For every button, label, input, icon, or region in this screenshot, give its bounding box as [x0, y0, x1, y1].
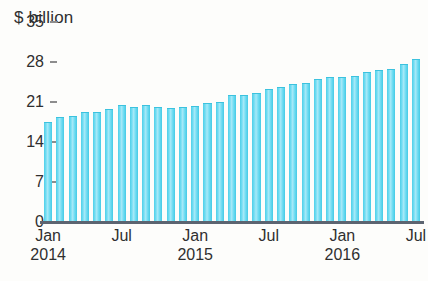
x-axis-line — [40, 221, 424, 224]
bar — [142, 105, 150, 222]
x-axis-month-label: Jul — [259, 226, 279, 245]
x-axis-year-label: 2016 — [325, 245, 361, 264]
x-axis-tick-label: Jul — [259, 226, 279, 245]
bar — [351, 76, 359, 222]
bar — [302, 83, 310, 222]
bar — [216, 102, 224, 222]
x-axis-tick-label: Jan2015 — [177, 226, 213, 264]
bars-layer — [42, 22, 422, 222]
bar — [56, 117, 64, 222]
x-axis-month-label: Jul — [111, 226, 131, 245]
bar — [105, 109, 113, 222]
bar — [338, 77, 346, 222]
bar — [277, 87, 285, 222]
bar-chart: $ billion 0714212835 Jan2014JulJan2015Ju… — [0, 0, 428, 281]
bar — [118, 105, 126, 222]
bar — [387, 69, 395, 222]
bar — [375, 70, 383, 222]
bar — [363, 72, 371, 222]
bar — [412, 59, 420, 222]
x-axis-tick-label: Jan2014 — [30, 226, 66, 264]
bar — [326, 77, 334, 222]
bar — [240, 95, 248, 222]
x-axis-month-label: Jan — [177, 226, 213, 245]
bar — [44, 122, 52, 222]
bar — [130, 107, 138, 222]
bar — [93, 112, 101, 222]
x-axis-tick-label: Jan2016 — [325, 226, 361, 264]
bar — [265, 89, 273, 222]
bar — [400, 64, 408, 222]
bar — [289, 84, 297, 222]
bar — [69, 116, 77, 222]
bar — [154, 107, 162, 222]
bar — [191, 106, 199, 222]
bar — [203, 103, 211, 222]
x-axis-month-label: Jul — [406, 226, 426, 245]
x-axis-year-label: 2014 — [30, 245, 66, 264]
bar — [81, 112, 89, 222]
x-axis-tick-label: Jul — [111, 226, 131, 245]
x-axis: Jan2014JulJan2015JulJan2016Jul — [0, 226, 428, 281]
bar — [179, 107, 187, 222]
x-axis-tick-label: Jul — [406, 226, 426, 245]
bar — [167, 108, 175, 222]
bar — [314, 79, 322, 222]
bar — [228, 95, 236, 222]
plot-area — [42, 22, 422, 222]
x-axis-month-label: Jan — [325, 226, 361, 245]
bar — [252, 93, 260, 222]
x-axis-year-label: 2015 — [177, 245, 213, 264]
x-axis-month-label: Jan — [30, 226, 66, 245]
